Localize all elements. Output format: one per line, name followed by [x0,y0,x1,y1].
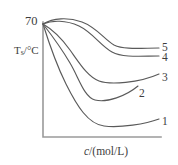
curve-1 [43,24,159,127]
curve-label-2: 2 [139,88,145,100]
curve-3 [43,24,159,83]
y-axis-title-unit: /°C [24,44,39,56]
x-axis-title-unit: /(mol/L) [89,145,128,157]
y-axis-title-variable: T [14,44,21,56]
y-axis-top-tick-label: 70 [25,15,38,28]
y-axis-title: Ts/°C [14,45,39,57]
curve-label-1: 1 [162,116,168,128]
x-axis-title: c/(mol/L) [84,146,128,158]
curve-label-3: 3 [162,72,168,84]
curve-label-4: 4 [162,52,168,64]
chart-figure: 70 Ts/°C c/(mol/L) 5 4 3 2 1 [0,0,178,165]
